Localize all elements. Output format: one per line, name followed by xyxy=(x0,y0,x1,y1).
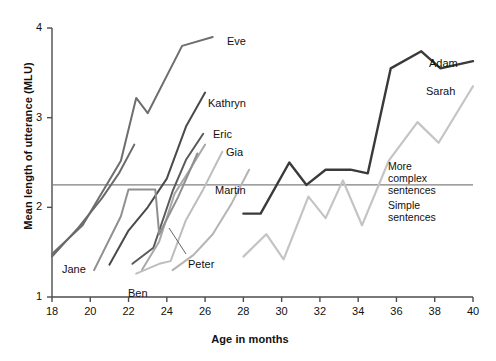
x-tick-24: 24 xyxy=(154,305,180,317)
series-line-sarah xyxy=(243,86,473,259)
series-label-peter: Peter xyxy=(188,258,214,270)
x-tick-20: 20 xyxy=(77,305,103,317)
series-label-eric: Eric xyxy=(213,128,232,140)
complex-line-1: More xyxy=(388,160,436,172)
series-label-sarah: Sarah xyxy=(426,85,455,97)
x-tick-38: 38 xyxy=(422,305,448,317)
series-label-martin: Martin xyxy=(215,184,246,196)
series-label-adam: Adam xyxy=(429,57,458,69)
x-tick-26: 26 xyxy=(192,305,218,317)
simple-line-1: Simple xyxy=(388,199,436,211)
x-tick-18: 18 xyxy=(39,305,65,317)
chart-container: Mean length of utterance (MLU) Age in mo… xyxy=(0,0,496,361)
y-tick-2: 2 xyxy=(26,200,42,212)
y-tick-1: 1 xyxy=(26,290,42,302)
x-tick-34: 34 xyxy=(345,305,371,317)
series-label-gia: Gia xyxy=(226,146,243,158)
series-label-eve: Eve xyxy=(227,35,246,47)
series-label-kathryn: Kathryn xyxy=(208,97,246,109)
y-tick-3: 3 xyxy=(26,111,42,123)
simple-sentences-label: Simple sentences xyxy=(388,199,436,223)
series-line-adam xyxy=(243,51,473,213)
x-tick-30: 30 xyxy=(269,305,295,317)
x-tick-32: 32 xyxy=(307,305,333,317)
more-complex-sentences-label: More complex sentences xyxy=(388,160,436,196)
simple-line-2: sentences xyxy=(388,211,436,223)
series-lines xyxy=(52,37,473,274)
series-line-jane xyxy=(52,145,134,257)
series-label-jane: Jane xyxy=(62,263,86,275)
x-tick-22: 22 xyxy=(116,305,142,317)
series-label-ben: Ben xyxy=(128,287,148,299)
x-tick-40: 40 xyxy=(460,305,486,317)
x-tick-36: 36 xyxy=(383,305,409,317)
complex-line-3: sentences xyxy=(388,184,436,196)
y-tick-4: 4 xyxy=(26,21,42,33)
x-axis-title: Age in months xyxy=(160,333,340,345)
leader-lines xyxy=(169,228,186,254)
series-line-eve xyxy=(52,37,213,254)
series-line-eric xyxy=(132,134,203,264)
x-tick-28: 28 xyxy=(230,305,256,317)
peter-leader-line xyxy=(169,228,186,254)
series-line-peter xyxy=(136,152,222,274)
complex-line-2: complex xyxy=(388,172,436,184)
